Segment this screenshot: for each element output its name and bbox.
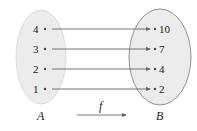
domain-element: 1	[33, 83, 39, 95]
codomain-element: 7	[159, 43, 165, 55]
point-dot	[154, 48, 156, 50]
point-dot	[154, 68, 156, 70]
mapping-diagram: 4 3 2 1 10 7 4 2 A B f	[0, 0, 197, 131]
domain-element: 3	[33, 43, 39, 55]
codomain-element: 4	[159, 63, 165, 75]
point-dot	[154, 88, 156, 90]
set-b-label: B	[156, 109, 164, 123]
domain-element: 2	[33, 63, 39, 75]
function-label: f	[99, 99, 104, 113]
codomain-element: 2	[159, 83, 165, 95]
set-a-label: A	[36, 109, 45, 123]
point-dot	[154, 28, 156, 30]
point-dot	[44, 88, 46, 90]
set-a-ellipse	[16, 10, 66, 104]
codomain-element: 10	[159, 23, 171, 35]
domain-element: 4	[33, 23, 39, 35]
point-dot	[44, 28, 46, 30]
point-dot	[44, 68, 46, 70]
point-dot	[44, 48, 46, 50]
